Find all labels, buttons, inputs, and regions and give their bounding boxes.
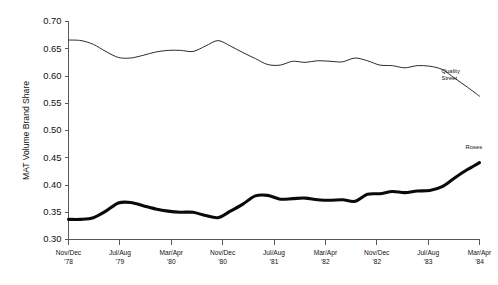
- y-tick-label: 0.40: [43, 179, 61, 190]
- x-tick-label-period: Mar/Apr: [160, 249, 184, 257]
- y-tick-label: 0.45: [43, 152, 61, 163]
- y-tick-label: 0.35: [43, 206, 61, 217]
- x-tick-label-year: '78: [64, 258, 73, 265]
- series-line-roses: [69, 163, 480, 220]
- series-label-quality-street-line1: Quality: [442, 68, 460, 74]
- x-tick-label-year: '81: [270, 258, 279, 265]
- x-tick-label-year: '79: [116, 258, 125, 265]
- x-tick-label-period: Nov/Dec: [364, 249, 390, 256]
- series-label-roses: Roses: [466, 144, 483, 150]
- x-tick-label-year: '82: [372, 258, 381, 265]
- chart-canvas: 0.700.650.600.550.500.450.400.350.30Nov/…: [0, 0, 498, 285]
- y-tick-label: 0.50: [43, 124, 61, 135]
- y-tick-label: 0.60: [43, 70, 61, 81]
- x-tick-label-period: Jul/Aug: [109, 249, 131, 257]
- x-tick-label-period: Jul/Aug: [263, 249, 285, 257]
- x-tick-label-period: Nov/Dec: [210, 249, 236, 256]
- y-tick-label: 0.70: [43, 15, 61, 26]
- brand-share-line-chart: 0.700.650.600.550.500.450.400.350.30Nov/…: [0, 0, 498, 285]
- series-label-quality-street-line2: Street: [442, 75, 458, 81]
- y-tick-label: 0.55: [43, 97, 61, 108]
- x-tick-label-year: '83: [424, 258, 433, 265]
- x-tick-label-period: Jul/Aug: [417, 249, 439, 257]
- x-tick-label-year: '82: [321, 258, 330, 265]
- y-tick-label: 0.65: [43, 43, 61, 54]
- x-tick-label-period: Mar/Apr: [314, 249, 338, 257]
- x-tick-label-year: '84: [475, 258, 484, 265]
- x-tick-label-year: '80: [218, 258, 227, 265]
- series-line-quality-street: [69, 40, 480, 96]
- y-tick-label: 0.30: [43, 233, 61, 244]
- y-axis-title: MAT Volume Brand Share: [21, 81, 31, 180]
- x-tick-label-period: Mar/Apr: [468, 249, 492, 257]
- x-tick-label-period: Nov/Dec: [56, 249, 82, 256]
- x-tick-label-year: '80: [167, 258, 176, 265]
